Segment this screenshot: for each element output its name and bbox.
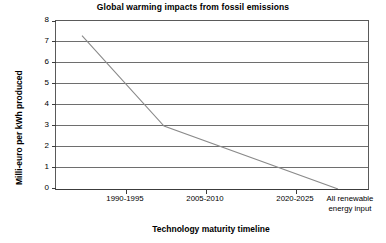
series-line <box>56 21 368 189</box>
x-tick-label-2005-2010: 2005-2010 <box>170 194 240 204</box>
chart-container: Global warming impacts from fossil emiss… <box>0 0 386 243</box>
x-tick-label-1990-1995: 1990-1995 <box>90 194 160 204</box>
y-tick-label-0: 0 <box>23 184 49 192</box>
x-tick-label-all-renewable-line1: All renewable <box>315 194 385 204</box>
x-axis-title: Technology maturity timeline <box>55 224 367 234</box>
y-tick-label-2: 2 <box>23 142 49 150</box>
x-tick-label-all-renewable-line2: energy input <box>315 204 385 214</box>
plot-area <box>55 20 369 190</box>
y-tick-label-5: 5 <box>23 79 49 87</box>
y-tick-label-6: 6 <box>23 58 49 66</box>
chart-title: Global warming impacts from fossil emiss… <box>0 2 386 12</box>
y-tick-label-4: 4 <box>23 100 49 108</box>
y-tick-label-7: 7 <box>23 37 49 45</box>
y-tick-label-1: 1 <box>23 163 49 171</box>
y-tick-label-3: 3 <box>23 121 49 129</box>
y-tick-label-8: 8 <box>23 16 49 24</box>
